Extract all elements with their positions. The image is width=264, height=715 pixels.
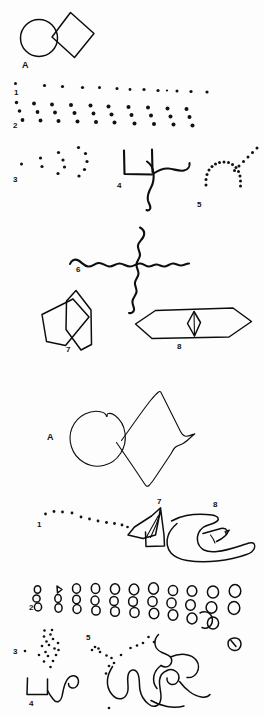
label-top-7: 7 (66, 345, 71, 354)
dotted-arch-model (205, 147, 259, 188)
label-top-8: 8 (177, 342, 182, 351)
label-bottom-5: 5 (86, 633, 91, 642)
dot-arcs-copy (24, 629, 60, 669)
label-top-3: 3 (13, 175, 18, 184)
label-bottom-8: 8 (213, 500, 218, 509)
figure-canvas: A 1 (0, 0, 264, 715)
label-top-5: 5 (197, 200, 202, 209)
dot-triplet-array-model (15, 101, 195, 128)
angular-wave-copy (27, 612, 212, 710)
overlapping-kites-model (42, 291, 92, 351)
wavy-cross-model (70, 228, 189, 314)
label-bottom-4: 4 (29, 699, 34, 708)
circle-and-diamond-copy (70, 391, 195, 486)
dotted-arch-copy (91, 636, 156, 675)
label-top-4: 4 (117, 181, 122, 190)
dot-row-model (14, 82, 209, 94)
circle-and-diamond-model (21, 13, 95, 58)
label-bottom-1: 1 (37, 520, 42, 529)
label-bottom-2: 2 (29, 603, 34, 612)
figure-root: A 1 (0, 0, 264, 715)
hexagon-with-diamond-copy (167, 514, 255, 561)
label-top-1: 1 (14, 88, 19, 97)
angular-wave-model (124, 150, 190, 211)
patient-reproduction-panel: A 1 7 (13, 391, 255, 709)
overlapping-kites-copy (128, 508, 165, 547)
model-stimuli-panel: A 1 (13, 13, 259, 355)
label-bottom-7: 7 (157, 497, 162, 506)
label-bottom-3: 3 (13, 647, 18, 656)
dot-row-copy (44, 510, 129, 528)
label-top-A: A (22, 60, 29, 70)
circle-triplet-array-copy (33, 583, 241, 651)
label-bottom-A: A (47, 432, 54, 442)
hexagon-with-diamond-model (136, 308, 252, 339)
dot-arcs-model (20, 146, 89, 178)
label-top-6: 6 (76, 265, 81, 274)
label-top-2: 2 (13, 121, 18, 130)
